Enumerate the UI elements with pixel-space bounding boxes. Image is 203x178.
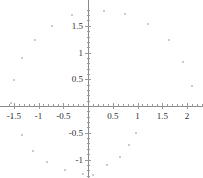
y-minor-tick (87, 69, 90, 70)
y-minor-tick (87, 143, 90, 144)
x-minor-tick (73, 104, 74, 107)
x-tick-label: 1 (135, 112, 140, 121)
y-minor-tick (87, 149, 90, 150)
x-minor-tick (43, 104, 44, 107)
x-minor-tick (128, 104, 129, 107)
y-tick-label: -0.5 (69, 128, 83, 137)
x-tick-label: -1 (35, 112, 43, 121)
data-point (124, 13, 126, 15)
x-minor-tick (142, 104, 143, 107)
x-tick-label: 1.5 (157, 112, 168, 121)
x-minor-tick (108, 104, 109, 107)
x-tick-label: -1.5 (7, 112, 21, 121)
y-minor-tick (87, 37, 90, 38)
data-point (119, 156, 121, 158)
x-minor-tick (9, 104, 10, 107)
y-minor-tick (87, 15, 90, 16)
x-minor-tick (202, 104, 203, 107)
y-tick-label: 1 (79, 48, 84, 57)
x-minor-tick (197, 104, 198, 107)
data-point (168, 39, 170, 41)
x-major-tick (162, 103, 163, 109)
y-major-tick (85, 26, 91, 27)
x-major-tick (14, 103, 15, 109)
y-minor-tick (87, 176, 90, 177)
x-tick-label: 2 (185, 112, 190, 121)
data-point (21, 57, 23, 59)
y-minor-tick (87, 165, 90, 166)
scatter-plot-canvas: -1.5-1-0.50.511.52 1.510.5-0.5-1 (0, 0, 203, 178)
x-minor-tick (34, 104, 35, 107)
x-minor-tick (98, 104, 99, 107)
y-minor-tick (87, 90, 90, 91)
data-point (128, 144, 130, 146)
x-tick-label: -0.5 (56, 112, 70, 121)
data-point (82, 173, 84, 175)
data-point (135, 132, 137, 134)
x-minor-tick (182, 104, 183, 107)
data-point (51, 25, 53, 27)
y-minor-tick (87, 63, 90, 64)
x-minor-tick (118, 104, 119, 107)
data-point (106, 164, 108, 166)
y-minor-tick (87, 170, 90, 171)
x-minor-tick (152, 104, 153, 107)
y-tick-label: 0.5 (72, 75, 83, 84)
data-point (71, 14, 73, 16)
data-point (103, 10, 105, 12)
x-minor-tick (68, 104, 69, 107)
y-major-tick (85, 160, 91, 161)
x-major-tick (39, 103, 40, 109)
y-minor-tick (87, 20, 90, 21)
data-point (191, 85, 193, 87)
y-minor-tick (87, 95, 90, 96)
x-major-tick (113, 103, 114, 109)
x-minor-tick (123, 104, 124, 107)
y-minor-tick (87, 138, 90, 139)
x-minor-tick (53, 104, 54, 107)
x-minor-tick (83, 104, 84, 107)
x-minor-tick (93, 104, 94, 107)
y-minor-tick (87, 111, 90, 112)
y-major-tick (85, 79, 91, 80)
x-minor-tick (29, 104, 30, 107)
y-minor-tick (87, 42, 90, 43)
data-point (182, 61, 184, 63)
y-major-tick (85, 133, 91, 134)
y-minor-tick (87, 74, 90, 75)
x-minor-tick (192, 104, 193, 107)
x-minor-tick (167, 104, 168, 107)
data-point (64, 169, 66, 171)
x-major-tick (187, 103, 188, 109)
y-major-tick (85, 53, 91, 54)
y-minor-tick (87, 154, 90, 155)
y-minor-tick (87, 10, 90, 11)
data-point (13, 79, 15, 81)
data-point (10, 102, 12, 104)
y-minor-tick (87, 127, 90, 128)
y-minor-tick (87, 58, 90, 59)
x-minor-tick (177, 104, 178, 107)
data-point (21, 134, 23, 136)
y-minor-tick (87, 85, 90, 86)
x-minor-tick (78, 104, 79, 107)
data-point (32, 150, 34, 152)
y-minor-tick (87, 122, 90, 123)
data-point (46, 161, 48, 163)
x-minor-tick (157, 104, 158, 107)
data-point (34, 39, 36, 41)
y-minor-tick (87, 101, 90, 102)
x-minor-tick (147, 104, 148, 107)
x-major-tick (138, 103, 139, 109)
y-minor-tick (87, 117, 90, 118)
y-tick-label: 1.5 (72, 21, 83, 30)
x-minor-tick (24, 104, 25, 107)
x-minor-tick (19, 104, 20, 107)
y-minor-tick (87, 31, 90, 32)
x-minor-tick (172, 104, 173, 107)
x-minor-tick (48, 104, 49, 107)
x-minor-tick (58, 104, 59, 107)
x-tick-label: 0.5 (107, 112, 118, 121)
x-minor-tick (103, 104, 104, 107)
y-minor-tick (87, 47, 90, 48)
